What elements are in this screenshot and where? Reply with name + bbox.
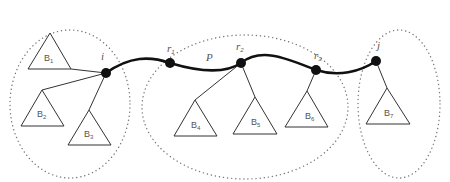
- subtree-b6: B6: [285, 91, 328, 127]
- left-cluster-ellipse: [10, 30, 130, 178]
- triangle-b4: [174, 100, 217, 136]
- node-r2: [236, 58, 246, 68]
- subtree-b1: B1: [28, 33, 71, 69]
- subtree-b7: B7: [366, 88, 410, 124]
- label-r3: r3: [314, 49, 322, 62]
- node-r3: [311, 65, 321, 75]
- label-p: P: [205, 51, 213, 63]
- triangle-b6: [285, 91, 328, 127]
- node-j: [371, 56, 381, 66]
- edge-r2-b5: [241, 63, 255, 97]
- subtree-b2: B2: [21, 90, 64, 126]
- node-r1: [165, 58, 175, 68]
- label-j: j: [375, 39, 380, 51]
- edge-i-b2: [42, 73, 106, 90]
- triangle-b5: [233, 97, 277, 134]
- subtree-b5: B5: [233, 97, 277, 134]
- right-cluster-ellipse: [358, 30, 440, 178]
- node-i: [101, 68, 111, 78]
- subtree-b4: B4: [174, 100, 217, 136]
- subtree-b3: B3: [68, 110, 111, 145]
- tree-path-diagram: B1 B2 B3 B4 B5 B6 B7 i r1 P r2 r3 j: [0, 0, 450, 182]
- triangle-b7: [366, 88, 410, 124]
- edge-i-b3: [89, 73, 106, 110]
- label-i: i: [101, 50, 104, 62]
- edge-i-b1: [71, 69, 106, 73]
- label-r1: r1: [167, 42, 175, 55]
- triangle-b2: [21, 90, 64, 126]
- label-r2: r2: [236, 40, 244, 53]
